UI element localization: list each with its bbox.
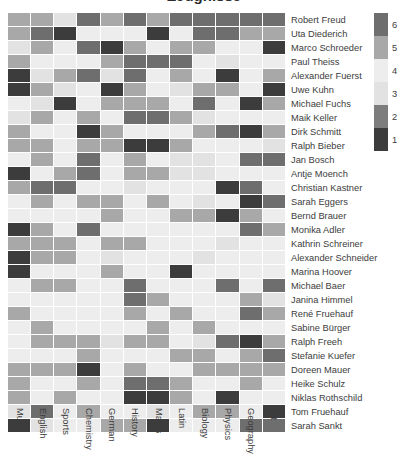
heatmap-cell: [170, 279, 193, 293]
heatmap-cell: [193, 139, 216, 153]
heatmap-cell: [216, 181, 239, 195]
heatmap-cell: [31, 209, 54, 223]
heatmap-cell: [216, 83, 239, 97]
heatmap-cell: [101, 209, 124, 223]
heatmap-cell: [101, 321, 124, 335]
heatmap-cell: [77, 377, 100, 391]
column-label: Maths: [154, 408, 164, 433]
row-label-axis: Robert FreudUta DiederichMarco Schroeder…: [291, 13, 371, 405]
colorbar-band: [374, 105, 388, 128]
heatmap-cell: [101, 55, 124, 69]
heatmap-cell: [124, 181, 147, 195]
heatmap-cell: [31, 27, 54, 41]
heatmap-cell: [77, 265, 100, 279]
heatmap-cell: [31, 223, 54, 237]
heatmap-cell: [77, 153, 100, 167]
column-label: Biology: [200, 408, 210, 439]
heatmap-cell: [124, 55, 147, 69]
heatmap-cell: [124, 111, 147, 125]
heatmap-cell: [170, 377, 193, 391]
heatmap-cell: [124, 41, 147, 55]
heatmap-cell: [240, 307, 263, 321]
heatmap-cell: [8, 83, 31, 97]
heatmap-cell: [31, 349, 54, 363]
heatmap-cell: [54, 181, 77, 195]
heatmap-cell: [147, 237, 170, 251]
heatmap-cell: [170, 125, 193, 139]
heatmap-cell: [77, 125, 100, 139]
column-label-slot: Biology: [193, 406, 216, 472]
heatmap-cell: [263, 363, 286, 377]
heatmap-cell: [77, 55, 100, 69]
heatmap-cell: [101, 125, 124, 139]
heatmap-cell: [101, 279, 124, 293]
heatmap-cell: [263, 251, 286, 265]
heatmap-cell: [54, 237, 77, 251]
heatmap-cell: [193, 13, 216, 27]
heatmap-cell: [193, 265, 216, 279]
column-label: Art: [269, 408, 279, 420]
heatmap-cell: [77, 237, 100, 251]
heatmap-cell: [54, 391, 77, 405]
heatmap-cell: [147, 83, 170, 97]
heatmap-cell: [54, 377, 77, 391]
heatmap-cell: [101, 307, 124, 321]
heatmap-cell: [147, 377, 170, 391]
row-label: Sarah Sankt: [291, 419, 371, 433]
heatmap-cell: [170, 293, 193, 307]
heatmap-cell: [147, 97, 170, 111]
heatmap-cell: [216, 27, 239, 41]
heatmap-cell: [31, 97, 54, 111]
heatmap-cell: [240, 153, 263, 167]
heatmap-cell: [54, 223, 77, 237]
heatmap-cell: [170, 349, 193, 363]
heatmap-cell: [124, 377, 147, 391]
heatmap-cell: [240, 293, 263, 307]
colorbar-band: [374, 82, 388, 105]
heatmap-cell: [124, 237, 147, 251]
heatmap-cell: [240, 27, 263, 41]
heatmap-cell: [77, 349, 100, 363]
heatmap-cell: [31, 279, 54, 293]
heatmap-cell: [240, 167, 263, 181]
row-label: Michael Fuchs: [291, 97, 371, 111]
heatmap-cell: [147, 111, 170, 125]
heatmap-cell: [77, 321, 100, 335]
heatmap-cell: [31, 69, 54, 83]
heatmap-cell: [170, 195, 193, 209]
row-label: René Fruehauf: [291, 307, 371, 321]
heatmap-cell: [240, 195, 263, 209]
row-label: Tom Fruehauf: [291, 405, 371, 419]
heatmap-cell: [124, 27, 147, 41]
heatmap-cell: [193, 307, 216, 321]
heatmap-cell: [193, 209, 216, 223]
heatmap-cell: [263, 181, 286, 195]
heatmap-cell: [263, 97, 286, 111]
heatmap-cell: [77, 195, 100, 209]
heatmap-cell: [193, 391, 216, 405]
heatmap-cell: [31, 251, 54, 265]
heatmap-cell: [101, 293, 124, 307]
heatmap-cell: [77, 97, 100, 111]
heatmap-cell: [263, 335, 286, 349]
heatmap-cell: [101, 349, 124, 363]
colorbar-tick-labels: 654321: [392, 13, 408, 151]
heatmap-cell: [263, 125, 286, 139]
row-label: Heike Schulz: [291, 377, 371, 391]
heatmap-cell: [31, 391, 54, 405]
row-label: Jan Bosch: [291, 153, 371, 167]
heatmap-cell: [54, 321, 77, 335]
heatmap-cell: [124, 83, 147, 97]
heatmap-cell: [54, 293, 77, 307]
heatmap-cell: [147, 55, 170, 69]
heatmap-cell: [8, 363, 31, 377]
row-label: Doreen Mauer: [291, 363, 371, 377]
heatmap-cell: [54, 97, 77, 111]
row-label: Marco Schroeder: [291, 41, 371, 55]
heatmap-cell: [147, 181, 170, 195]
heatmap-cell: [101, 377, 124, 391]
heatmap-cell: [193, 153, 216, 167]
heatmap-cell: [147, 265, 170, 279]
heatmap-cell: [8, 195, 31, 209]
row-label: Alexander Schneider: [291, 251, 371, 265]
